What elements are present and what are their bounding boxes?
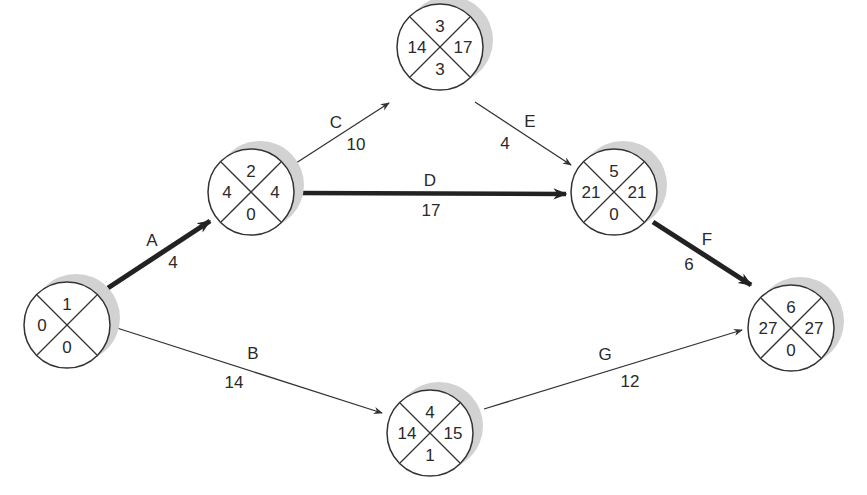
node-5-right: 21 bbox=[628, 183, 647, 202]
edge-F: F 6 bbox=[653, 222, 751, 285]
edge-E: E 4 bbox=[475, 102, 571, 165]
edge-D: D 17 bbox=[298, 171, 566, 220]
edge-C-duration: 10 bbox=[347, 135, 366, 154]
edge-A-duration: 4 bbox=[168, 253, 177, 272]
edges: A 4 B 14 C 10 D 17 E 4 F bbox=[108, 102, 751, 413]
node-4-left: 14 bbox=[398, 424, 417, 443]
edge-A-arrow bbox=[108, 221, 210, 288]
edge-E-activity: E bbox=[524, 112, 535, 131]
node-4-bottom: 1 bbox=[425, 446, 434, 465]
edge-B-activity: B bbox=[247, 344, 258, 363]
network-diagram: A 4 B 14 C 10 D 17 E 4 F bbox=[0, 0, 867, 495]
node-5-top: 5 bbox=[609, 162, 618, 181]
node-1-left: 0 bbox=[37, 316, 46, 335]
node-3-bottom: 3 bbox=[435, 60, 444, 79]
node-6-right: 27 bbox=[805, 319, 824, 338]
node-6-top: 6 bbox=[786, 298, 795, 317]
node-1: 1 0 0 bbox=[24, 274, 120, 368]
node-1-top: 1 bbox=[62, 295, 71, 314]
edge-D-duration: 17 bbox=[422, 201, 441, 220]
node-1-bottom: 0 bbox=[62, 338, 71, 357]
edge-C: C 10 bbox=[293, 103, 389, 165]
edge-B: B 14 bbox=[117, 328, 382, 413]
edge-G-duration: 12 bbox=[621, 372, 640, 391]
node-6-left: 27 bbox=[759, 319, 778, 338]
edge-E-arrow bbox=[475, 102, 571, 165]
node-6-bottom: 0 bbox=[786, 341, 795, 360]
node-3-right: 17 bbox=[454, 38, 473, 57]
node-3-left: 14 bbox=[408, 38, 427, 57]
edge-F-activity: F bbox=[702, 230, 712, 249]
edge-D-arrow bbox=[298, 193, 566, 194]
node-2-left: 4 bbox=[222, 183, 231, 202]
edge-G-arrow bbox=[484, 330, 742, 409]
node-2-right: 4 bbox=[270, 183, 279, 202]
edge-E-duration: 4 bbox=[500, 134, 509, 153]
edge-F-duration: 6 bbox=[684, 255, 693, 274]
edge-C-activity: C bbox=[330, 113, 342, 132]
node-4-right: 15 bbox=[444, 424, 463, 443]
node-4: 4 14 15 1 bbox=[387, 382, 483, 476]
edge-A: A 4 bbox=[108, 221, 210, 288]
node-2: 2 4 4 0 bbox=[208, 141, 304, 235]
node-3: 3 14 17 3 bbox=[397, 0, 493, 90]
edge-D-activity: D bbox=[424, 171, 436, 190]
node-2-top: 2 bbox=[246, 162, 255, 181]
node-4-top: 4 bbox=[425, 403, 434, 422]
node-2-bottom: 0 bbox=[246, 205, 255, 224]
edge-G-activity: G bbox=[598, 345, 611, 364]
node-5: 5 21 21 0 bbox=[571, 141, 667, 235]
node-5-bottom: 0 bbox=[609, 205, 618, 224]
edge-G: G 12 bbox=[484, 330, 742, 409]
edge-B-duration: 14 bbox=[225, 373, 244, 392]
edge-A-activity: A bbox=[146, 231, 158, 250]
edge-B-arrow bbox=[117, 328, 382, 413]
node-6: 6 27 27 0 bbox=[748, 277, 844, 371]
node-5-left: 21 bbox=[582, 183, 601, 202]
node-3-top: 3 bbox=[435, 17, 444, 36]
